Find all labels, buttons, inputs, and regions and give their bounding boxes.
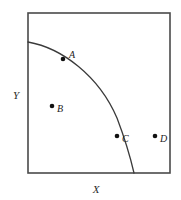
- point-marker-b: [50, 104, 55, 109]
- point-label-a: A: [68, 49, 76, 60]
- plot-frame: [28, 13, 170, 173]
- point-label-b: B: [57, 103, 63, 114]
- point-marker-d: [153, 134, 158, 139]
- x-axis-label: X: [92, 183, 101, 195]
- point-marker-c: [115, 134, 120, 139]
- ppf-figure: ABCD Y X: [0, 0, 181, 200]
- point-label-d: D: [159, 133, 168, 144]
- plot-canvas: ABCD Y X: [0, 0, 181, 200]
- point-label-c: C: [122, 133, 129, 144]
- point-marker-a: [61, 57, 66, 62]
